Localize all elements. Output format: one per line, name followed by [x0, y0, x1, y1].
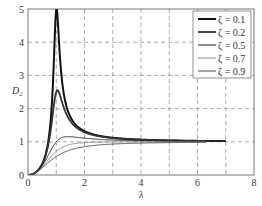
y-tick-label: 2	[19, 103, 24, 114]
legend-label: ζ = 0.7	[218, 53, 245, 65]
y-tick-label: 1	[19, 136, 24, 147]
series-line	[28, 142, 206, 175]
y-axis-label: D₂	[11, 85, 23, 96]
legend: ζ = 0.1ζ = 0.2ζ = 0.5ζ = 0.7ζ = 0.9	[193, 11, 251, 78]
y-tick-label: 5	[19, 4, 24, 15]
x-tick-label: 8	[252, 177, 257, 188]
y-tick-label: 0	[19, 170, 24, 181]
y-tick-label: 3	[19, 70, 24, 81]
x-tick-label: 6	[195, 177, 200, 188]
y-tick-label: 4	[19, 37, 24, 48]
legend-label: ζ = 0.1	[218, 14, 245, 26]
x-tick-label: 4	[139, 177, 144, 188]
series-line	[28, 90, 226, 175]
series-line	[28, 142, 206, 175]
legend-label: ζ = 0.9	[218, 66, 245, 78]
x-tick-label: 0	[26, 177, 31, 188]
legend-label: ζ = 0.2	[218, 27, 245, 39]
legend-label: ζ = 0.5	[218, 40, 245, 52]
chart: 02468012345 D₂ λ ζ = 0.1ζ = 0.2ζ = 0.5ζ …	[0, 0, 262, 206]
x-tick-label: 2	[82, 177, 87, 188]
x-axis-label: λ	[138, 189, 144, 200]
